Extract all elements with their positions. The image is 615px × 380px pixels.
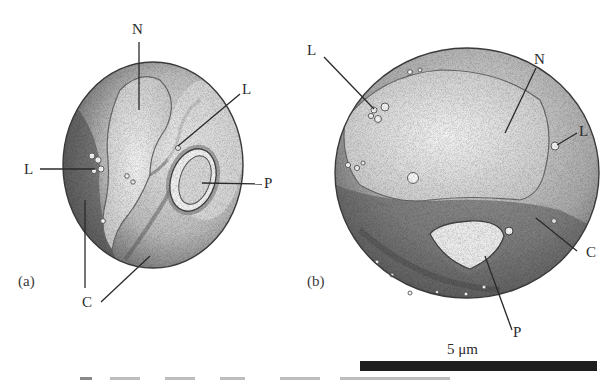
cell-b [330, 45, 605, 305]
label-b-nucleus: N [534, 52, 545, 67]
label-a-lipid-right: L [242, 82, 251, 97]
label-b-lipid-right: L [579, 124, 588, 139]
panel-label-b: (b) [307, 273, 325, 290]
label-a-nucleus: N [132, 22, 143, 37]
label-a-cytoplasm: C [82, 295, 92, 310]
cell-a [40, 60, 250, 270]
scale-bar-label: 5 μm [447, 341, 478, 358]
cell-diagram-figure: N L L P C (a) L N L C P (b) 5 μm [0, 0, 615, 380]
scale-bar [360, 361, 597, 371]
label-b-lipid-left: L [307, 43, 316, 58]
panel-label-a: (a) [18, 273, 35, 290]
label-b-cytoplasm: C [586, 245, 596, 260]
caption-cropped [70, 375, 610, 380]
leader-b-lipid-left [324, 57, 374, 109]
label-a-plastid: P [264, 176, 272, 191]
label-a-lipid-left: L [24, 162, 33, 177]
label-b-plastid: P [513, 325, 521, 340]
